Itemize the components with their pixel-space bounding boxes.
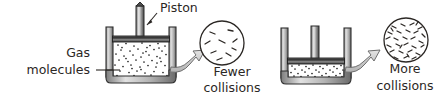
gas-pressure-diagram: Piston Gas molecules Fewer colli: [0, 0, 448, 96]
inset-circle-more: [384, 18, 428, 62]
piston-rod-small: [311, 26, 319, 58]
diagram-canvas: Piston Gas molecules Fewer colli: [0, 0, 448, 96]
more-collisions-label-line1: More: [390, 61, 421, 76]
gas-region-large: [113, 41, 169, 77]
gas-molecules-label-line1: Gas: [66, 45, 90, 60]
piston-disc-small: [288, 58, 345, 64]
piston-rod-large: [136, 6, 144, 36]
small-volume-cylinder: [281, 26, 351, 84]
piston-disc-large: [113, 36, 170, 42]
piston-leader-arrow: [147, 13, 157, 25]
fewer-collisions-label-line1: Fewer: [213, 64, 251, 79]
fewer-collisions-label-line2: collisions: [203, 80, 260, 95]
gas-molecules-label-line2: molecules: [27, 62, 90, 77]
more-collisions-label-line2: collisions: [376, 78, 433, 93]
piston-label: Piston: [160, 0, 198, 15]
fewer-collisions-inset: [200, 21, 244, 65]
more-collisions-inset: [384, 18, 428, 62]
piston-rod-tip: [136, 2, 144, 6]
